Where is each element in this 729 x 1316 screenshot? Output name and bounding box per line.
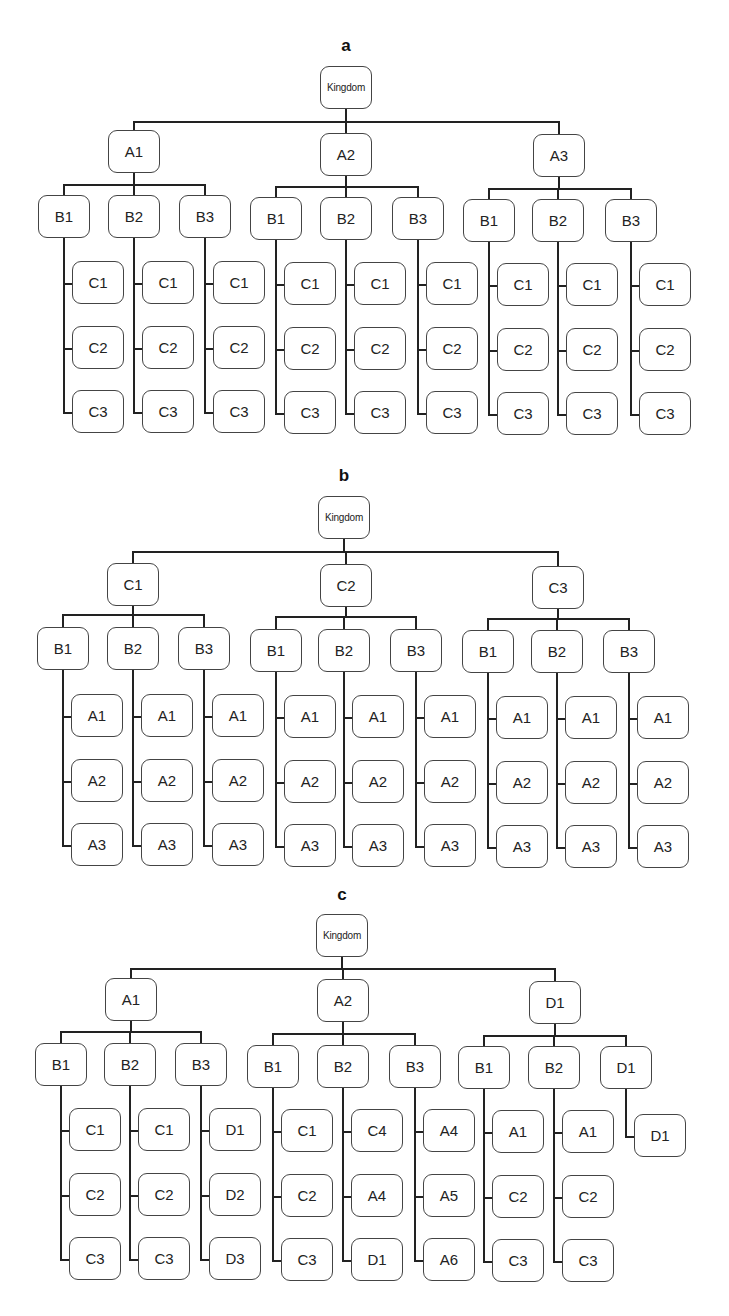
connector-line [275,672,277,847]
tree-node-leaf: A3 [352,824,404,867]
tree-node-leaf: C2 [69,1173,121,1216]
tree-node-leaf: C3 [213,390,265,433]
root-node-kingdom: Kingdom [316,914,368,957]
connector-line [204,238,206,413]
connector-line [417,240,419,414]
connector-line [133,121,135,130]
tree-node-level-2: B3 [390,629,442,672]
connector-line [275,717,284,719]
connector-line [133,283,142,285]
tree-node-leaf: C2 [281,1174,333,1217]
connector-line [275,186,419,188]
connector-line [345,413,354,415]
tree-node-leaf: C3 [639,392,691,435]
tree-node-leaf: D2 [209,1173,261,1216]
connector-line [275,782,284,784]
tree-node-leaf: C3 [492,1239,544,1282]
connector-line [62,845,71,847]
tree-node-leaf: C1 [69,1108,121,1151]
connector-line [132,670,134,846]
tree-node-leaf: C1 [138,1108,190,1151]
tree-node-leaf: C1 [72,261,124,304]
connector-line [487,718,496,720]
tree-node-level-2: B1 [247,1045,299,1088]
connector-line [272,1088,274,1261]
connector-line [556,718,565,720]
tree-node-level-2: B3 [603,630,655,673]
connector-line [553,1035,555,1046]
connector-line [275,616,417,618]
connector-line [487,847,496,849]
tree-node-leaf: C3 [138,1237,190,1280]
connector-line [203,716,212,718]
connector-line [343,846,352,848]
connector-line [414,1260,423,1262]
connector-line [417,284,426,286]
connector-line [272,1033,274,1045]
connector-line [414,1088,416,1261]
connector-line [488,414,497,416]
tree-node-level-2: B3 [389,1045,441,1088]
tree-node-leaf: C3 [566,392,618,435]
tree-node-leaf: C1 [426,262,478,305]
tree-node-leaf: C3 [69,1237,121,1280]
connector-line [342,1088,344,1261]
connector-line [488,285,497,287]
connector-line [487,783,496,785]
connector-line [63,238,65,413]
connector-line [275,846,284,848]
connector-line [62,781,71,783]
connector-line [483,1035,627,1037]
panel-title: c [337,886,346,903]
tree-node-level-2: B1 [35,1043,87,1086]
tree-node-leaf: C3 [284,391,336,434]
connector-line [414,1196,423,1198]
tree-node-leaf: A3 [284,824,336,867]
connector-line [556,847,565,849]
connector-line [272,1196,281,1198]
panel-title: a [341,37,350,54]
tree-node-leaf: C3 [354,391,406,434]
connector-line [204,184,206,195]
connector-line [129,1259,138,1261]
tree-node-leaf: C2 [284,327,336,370]
tree-node-leaf: A2 [212,759,264,802]
connector-line [133,412,142,414]
connector-line [630,414,639,416]
tree-node-leaf: C2 [492,1175,544,1218]
tree-node-level-2: B3 [178,627,230,670]
connector-line [553,1089,555,1262]
connector-line [272,1033,416,1035]
connector-line [554,968,556,981]
tree-node-leaf: C2 [142,326,194,369]
tree-node-level-2: B3 [179,195,231,238]
tree-node-leaf: C2 [354,327,406,370]
connector-line [132,716,141,718]
connector-line [343,616,345,629]
tree-node-leaf: D1 [634,1114,686,1157]
connector-line [275,413,284,415]
tree-node-leaf: A2 [424,760,476,803]
connector-line [60,1031,62,1043]
connector-line [342,968,344,979]
tree-node-leaf: C3 [281,1238,333,1281]
connector-line [483,1089,485,1262]
connector-line [488,188,632,190]
tree-node-level-2: B2 [108,195,160,238]
connector-line [200,1259,209,1261]
connector-line [345,349,354,351]
connector-line [129,1130,138,1132]
tree-node-leaf: A1 [492,1110,544,1153]
tree-node-leaf: A2 [352,760,404,803]
tree-node-level-2: B1 [463,199,515,242]
tree-node-leaf: C1 [284,262,336,305]
connector-line [417,413,426,415]
tree-node-level-2: B1 [462,630,514,673]
connector-line [342,1131,351,1133]
tree-node-leaf: A1 [565,696,617,739]
connector-line [204,283,213,285]
tree-node-leaf: C2 [72,326,124,369]
tree-node-leaf: A1 [496,696,548,739]
tree-node-leaf: A3 [141,823,193,866]
tree-node-leaf: A2 [141,759,193,802]
